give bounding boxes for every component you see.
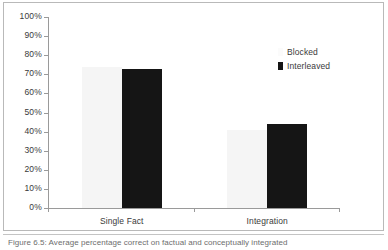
figure-caption: Figure 6.5: Average percentage correct o… — [8, 237, 382, 248]
figure-page: 0%10%20%30%40%50%60%70%80%90%100% Single… — [0, 0, 388, 250]
y-tick-mark — [44, 151, 48, 152]
x-tick-mark — [194, 208, 195, 212]
y-tick-mark — [44, 17, 48, 18]
y-tick-label: 0% — [29, 202, 42, 212]
bar-blocked-integration — [227, 130, 267, 208]
bar-interleaved-single-fact — [122, 69, 162, 208]
legend-swatch-interleaved-icon — [278, 62, 283, 70]
chart-figure-frame: 0%10%20%30%40%50%60%70%80%90%100% Single… — [3, 2, 384, 231]
legend-label-blocked: Blocked — [287, 47, 318, 57]
y-tick-label: 90% — [24, 30, 42, 40]
y-tick-mark — [44, 189, 48, 190]
y-tick-label: 30% — [24, 145, 42, 155]
category-label-single-fact: Single Fact — [100, 216, 144, 226]
x-tick-mark — [339, 208, 340, 212]
y-tick-label: 20% — [24, 164, 42, 174]
chart-plot-area: 0%10%20%30%40%50%60%70%80%90%100% Single… — [48, 17, 340, 209]
legend-item-blocked: Blocked — [278, 45, 330, 59]
y-tick-label: 60% — [24, 87, 42, 97]
y-tick-label: 10% — [24, 183, 42, 193]
x-tick-mark — [48, 208, 49, 212]
y-tick-label: 50% — [24, 107, 42, 117]
category-label-integration: Integration — [247, 216, 288, 226]
y-tick-label: 40% — [24, 126, 42, 136]
y-tick-mark — [44, 132, 48, 133]
y-tick-mark — [44, 113, 48, 114]
y-tick-mark — [44, 170, 48, 171]
y-tick-mark — [44, 36, 48, 37]
y-tick-label: 70% — [24, 68, 42, 78]
legend-item-interleaved: Interleaved — [278, 59, 330, 73]
y-tick-label: 80% — [24, 49, 42, 59]
y-tick-label: 100% — [19, 11, 42, 21]
bar-interleaved-integration — [267, 124, 307, 208]
legend-label-interleaved: Interleaved — [287, 61, 330, 71]
bar-blocked-single-fact — [82, 67, 122, 208]
y-tick-mark — [44, 55, 48, 56]
chart-legend: Blocked Interleaved — [278, 45, 330, 73]
legend-swatch-blocked-icon — [278, 48, 283, 56]
y-tick-mark — [44, 93, 48, 94]
y-tick-mark — [44, 74, 48, 75]
caption-divider — [3, 234, 384, 235]
